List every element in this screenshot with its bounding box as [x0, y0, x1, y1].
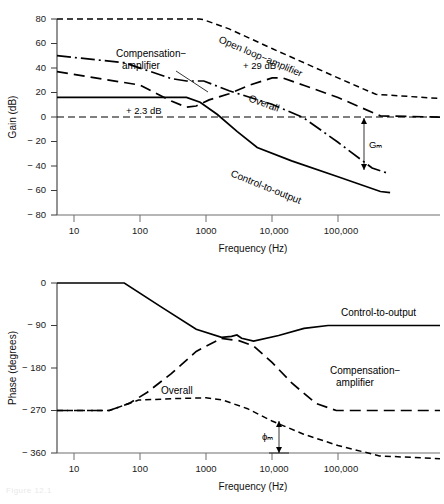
gain-ytick-neg80: − 80: [27, 209, 46, 220]
gain-ytick-40: 40: [35, 62, 46, 73]
figure-container: 80 60 40 20 0 − 20 − 40 − 60 − 80 10 100…: [0, 0, 444, 504]
label-control-to-output: Control-to-output: [229, 168, 303, 206]
phase-label-compensation-line2: amplifier: [336, 377, 374, 388]
phase-ytick-0: 0: [41, 277, 46, 288]
phase-xtick-10000: 10,000: [259, 463, 288, 474]
gain-chart: 80 60 40 20 0 − 20 − 40 − 60 − 80 10 100…: [0, 0, 444, 266]
phase-xaxis-title: Frequency (Hz): [219, 481, 288, 492]
gain-xtick-100000: 100,000: [324, 225, 358, 236]
phase-ytick-neg270: − 270: [22, 404, 46, 415]
gain-margin-annotation: Gₘ: [361, 118, 382, 170]
phase-margin-label: ϕₘ: [262, 431, 273, 442]
gain-ytick-neg40: − 40: [27, 160, 46, 171]
gain-margin-label: Gₘ: [369, 139, 382, 150]
gain-ytick-60: 60: [35, 37, 46, 48]
gain-xtick-100: 100: [132, 225, 148, 236]
gain-y-ticks: 80 60 40 20 0 − 20 − 40 − 60 − 80: [27, 13, 57, 220]
phase-curve-overall: [57, 398, 440, 459]
phase-ytick-neg180: − 180: [22, 362, 46, 373]
gain-xtick-10: 10: [69, 225, 80, 236]
phase-label-compensation-amplifier: Compensation− amplifier: [330, 365, 400, 388]
phase-ytick-neg90: − 90: [27, 319, 46, 330]
label-compensation-line2: amplifier: [122, 60, 160, 71]
phase-label-compensation-line1: Compensation−: [330, 365, 400, 376]
curve-compensation-amplifier: [57, 56, 387, 173]
phase-chart: 0 − 90 − 180 − 270 − 360 10 100 1000 10,…: [0, 266, 444, 502]
gain-yaxis-title: Gain (dB): [7, 96, 18, 139]
gain-ytick-neg20: − 20: [27, 135, 46, 146]
annotation-plus-2p3-db: + 2.3 dB: [126, 105, 162, 116]
gain-ytick-80: 80: [35, 13, 46, 24]
phase-ytick-neg360: − 360: [22, 447, 46, 458]
gain-xtick-10000: 10,000: [259, 225, 288, 236]
gain-ytick-20: 20: [35, 86, 46, 97]
gain-xtick-1000: 1000: [195, 225, 216, 236]
curve-open-loop-amplifier: [57, 19, 440, 98]
gain-ytick-0: 0: [41, 111, 46, 122]
phase-xtick-100000: 100,000: [324, 463, 358, 474]
figure-caption: Figure 12.1: [6, 486, 52, 495]
phase-x-ticks: 10 100 1000 10,000 100,000: [69, 453, 358, 474]
label-overall: Overall: [247, 93, 281, 114]
gain-x-ticks: 10 100 1000 10,000 100,000: [69, 215, 358, 236]
phase-xtick-1000: 1000: [195, 463, 216, 474]
phase-label-overall: Overall: [161, 385, 193, 396]
curve-control-to-output: [57, 97, 390, 192]
label-compensation-line1: Compensation−: [116, 48, 186, 59]
phase-xtick-100: 100: [132, 463, 148, 474]
gain-xaxis-title: Frequency (Hz): [219, 243, 288, 254]
phase-yaxis-title: Phase (degrees): [7, 331, 18, 405]
label-compensation-amplifier: Compensation− amplifier: [116, 48, 208, 92]
phase-label-control-to-output: Control-to-output: [341, 307, 416, 318]
phase-xtick-10: 10: [69, 463, 80, 474]
gain-ytick-neg60: − 60: [27, 184, 46, 195]
phase-y-ticks: 0 − 90 − 180 − 270 − 360: [22, 277, 57, 458]
